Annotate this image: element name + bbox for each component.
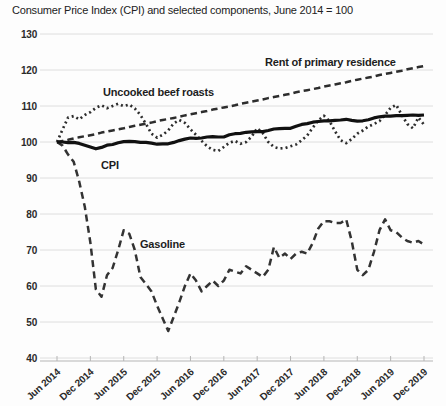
y-axis-label: 110 [21, 101, 37, 112]
series-label-beef: Uncooked beef roasts [103, 86, 214, 98]
x-axis-label: Dec 2018 [324, 366, 363, 403]
y-axis-label: 90 [26, 173, 37, 184]
y-axis-label: 70 [26, 245, 37, 256]
cpi-components-chart: Consumer Price Index (CPI) and selected … [0, 0, 446, 406]
series-label-cpi: CPI [101, 159, 119, 171]
x-axis-label: Jun 2016 [158, 366, 196, 402]
x-axis-label: Dec 2016 [191, 366, 230, 403]
y-axis-label: 50 [26, 317, 37, 328]
x-axis-label: Jun 2015 [91, 366, 129, 402]
x-axis-label: Dec 2019 [391, 366, 430, 403]
series-line-rent [57, 66, 424, 142]
x-axis-label: Jun 2017 [225, 366, 263, 402]
series-label-gasoline: Gasoline [140, 238, 185, 250]
x-axis-label: Jun 2014 [24, 366, 62, 402]
y-axis-label: 60 [26, 281, 37, 292]
y-axis-label: 80 [26, 209, 37, 220]
x-axis-label: Dec 2015 [124, 366, 163, 403]
x-axis-label: Jun 2019 [358, 366, 396, 402]
y-axis-label: 100 [21, 137, 38, 148]
x-axis-label: Dec 2017 [257, 366, 296, 403]
x-axis-label: Dec 2014 [57, 366, 96, 403]
y-axis-label: 40 [26, 353, 37, 364]
series-label-rent: Rent of primary residence [265, 56, 396, 68]
x-axis-label: Jun 2018 [291, 366, 329, 402]
chart-plot-area: 405060708090100110120130Jun 2014Dec 2014… [0, 0, 446, 406]
y-axis-label: 130 [21, 29, 38, 40]
y-axis-label: 120 [21, 65, 38, 76]
